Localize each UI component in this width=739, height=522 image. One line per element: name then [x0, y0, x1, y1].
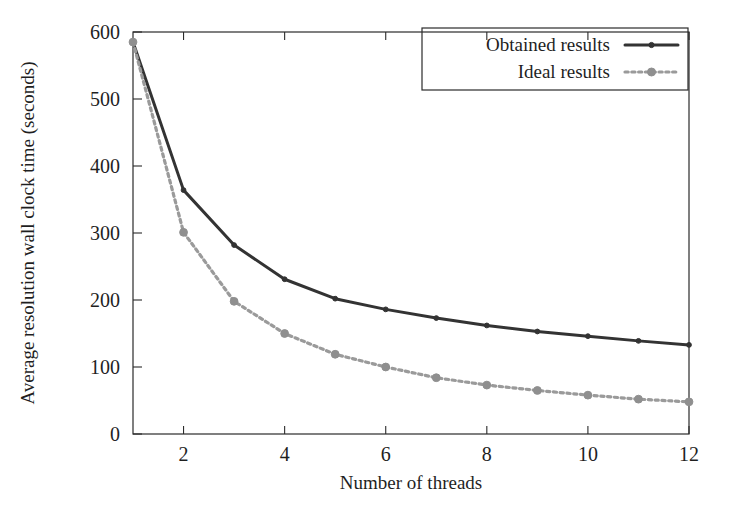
y-axis-tick-labels: 0100200300400500600: [90, 21, 120, 445]
y-tick-label: 500: [90, 88, 120, 110]
figure-container: 0100200300400500600 24681012 Obtained re…: [0, 0, 739, 522]
y-tick-label: 400: [90, 155, 120, 177]
x-tick-label: 12: [679, 443, 699, 465]
y-tick-label: 300: [90, 222, 120, 244]
y-tick-label: 0: [110, 423, 120, 445]
legend-label-ideal: Ideal results: [518, 61, 610, 82]
legend: Obtained results Ideal results: [422, 28, 688, 90]
y-axis-title: Average resolution wall clock time (seco…: [17, 61, 39, 404]
x-tick-label: 6: [381, 443, 391, 465]
series-obtained: [131, 40, 692, 348]
x-tick-label: 8: [482, 443, 492, 465]
y-axis-ticks: [133, 32, 142, 434]
x-tick-label: 2: [179, 443, 189, 465]
line-chart: 0100200300400500600 24681012 Obtained re…: [0, 0, 739, 522]
y-tick-label: 200: [90, 289, 120, 311]
legend-swatch-ideal: [625, 68, 678, 76]
data-series-layer: [129, 38, 693, 406]
legend-swatch-obtained: [625, 42, 678, 47]
y-tick-label: 600: [90, 21, 120, 43]
x-axis-tick-labels: 24681012: [179, 443, 699, 465]
x-axis-title: Number of threads: [340, 472, 482, 493]
x-tick-label: 4: [280, 443, 290, 465]
y-tick-label: 100: [90, 356, 120, 378]
legend-label-obtained: Obtained results: [486, 34, 610, 55]
x-tick-label: 10: [578, 443, 598, 465]
